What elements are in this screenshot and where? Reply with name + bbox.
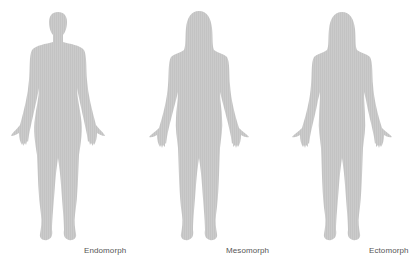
ectomorph-label: Ectomorph	[369, 246, 409, 255]
endomorph-label: Endomorph	[84, 246, 126, 255]
endomorph-silhouette	[0, 0, 411, 264]
mesomorph-label: Mesomorph	[226, 246, 269, 255]
